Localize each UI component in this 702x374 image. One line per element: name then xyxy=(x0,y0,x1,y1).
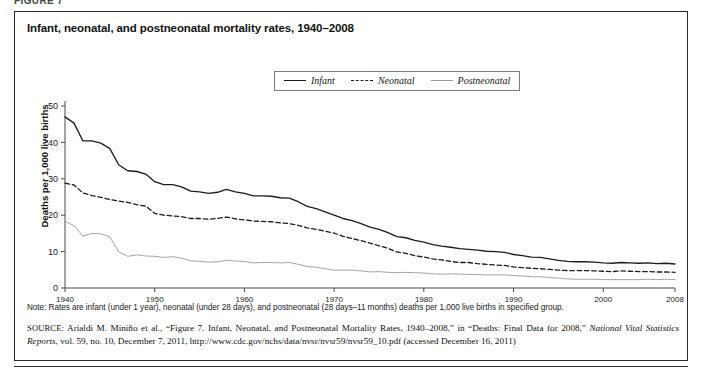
bottom-divider xyxy=(14,366,688,367)
series-line-infant xyxy=(65,117,675,264)
source-text-part2: , vol. 59, no. 10, December 7, 2011, htt… xyxy=(56,336,516,346)
series-line-postneonatal xyxy=(65,221,675,279)
figure-container: Infant, neonatal, and postneonatal morta… xyxy=(14,11,688,361)
y-tick-label: 10 xyxy=(48,247,58,257)
page-figure-caption-sliver: FIGURE 7 xyxy=(14,0,134,9)
source-text-part1: Arialdi M. Miniño et al., “Figure 7. Inf… xyxy=(67,323,589,333)
page-figure-caption-text: FIGURE 7 xyxy=(14,0,134,5)
figure-source: SOURCE: Arialdi M. Miniño et al., “Figur… xyxy=(27,322,679,347)
y-tick-label: 0 xyxy=(53,283,58,293)
figure-page: FIGURE 7 Infant, neonatal, and postneona… xyxy=(0,0,702,374)
mortality-line-chart: 0102030405019401950196019701980199020002… xyxy=(15,12,689,312)
source-label: SOURCE: xyxy=(27,323,64,333)
y-axis-label: Deaths per 1,000 live births xyxy=(39,108,50,228)
figure-note: Note: Rates are infant (under 1 year), n… xyxy=(27,302,677,313)
